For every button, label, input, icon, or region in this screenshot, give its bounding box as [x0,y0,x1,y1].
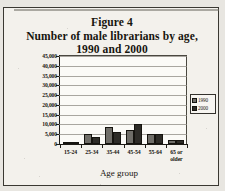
scan-speckle [179,173,180,174]
scan-speckle [154,38,155,39]
bar [168,140,176,144]
y-axis-tick-label: 45,000 [17,53,57,59]
x-axis-tick-mark [145,145,146,148]
scan-speckle [67,28,68,29]
chart-legend: 19902000 [190,94,216,114]
bar [105,127,113,144]
x-axis-tick-mark [187,145,188,148]
x-axis-tick-mark [102,145,103,148]
y-axis-tick-label: 20,000 [17,102,57,108]
y-axis-tick-mark [56,56,59,57]
bar-group [60,56,81,144]
bar [126,130,134,144]
y-axis-tick-label: 0 [17,141,57,147]
y-axis-tick-mark [56,76,59,77]
y-axis-tick-mark [56,95,59,96]
legend-swatch [192,106,197,111]
legend-item: 2000 [192,104,214,112]
y-axis-tick-label: 15,000 [17,112,57,118]
scan-speckle [39,176,40,177]
bar-group [124,56,145,144]
y-axis-tick-label: 30,000 [17,82,57,88]
scanned-page-frame: Figure 4 Number of male librarians by ag… [3,7,219,186]
bar-chart: 45,00040,00035,00030,00025,00020,00015,0… [4,8,220,187]
bar [176,140,184,144]
y-axis-tick-label: 35,000 [17,73,57,79]
y-axis-tick-mark [56,85,59,86]
y-axis-tick-mark [56,144,59,145]
bar [84,134,92,144]
x-axis-tick-mark [81,145,82,148]
bar-group [166,56,187,144]
y-axis-tick-mark [56,134,59,135]
scan-speckle [206,128,207,129]
bar [147,134,155,144]
bar [134,124,142,144]
y-axis-tick-label: 10,000 [17,121,57,127]
y-axis-tick-mark [56,105,59,106]
scan-speckle [24,158,25,159]
y-axis-tick-mark [56,115,59,116]
bar-group [81,56,102,144]
bar-group [145,56,166,144]
y-axis-tick-label: 40,000 [17,63,57,69]
scan-speckle [100,184,101,185]
bar [71,142,79,144]
legend-item: 1990 [192,96,214,104]
y-axis-tick-label: 25,000 [17,92,57,98]
x-axis-tick-mark [124,145,125,148]
bar [155,134,163,144]
legend-swatch [192,98,197,103]
x-axis-tick-mark [166,145,167,148]
y-axis-tick-label: 5,000 [17,131,57,137]
x-axis-tick-label: 65 orolder [159,149,193,162]
scan-speckle [18,68,19,69]
legend-label: 2000 [198,105,208,111]
x-axis-tick-mark [60,145,61,148]
bar [63,142,71,144]
bar [92,137,100,144]
y-axis-tick-mark [56,124,59,125]
bars-layer [60,56,187,144]
bar [113,132,121,144]
x-axis-title: Age group [44,168,194,178]
bar-group [102,56,123,144]
legend-label: 1990 [198,97,208,103]
y-axis-tick-mark [56,66,59,67]
